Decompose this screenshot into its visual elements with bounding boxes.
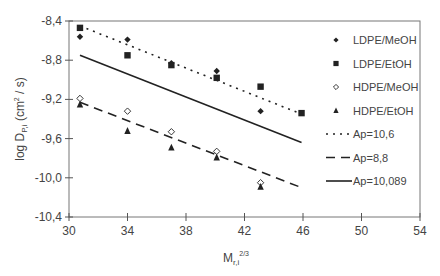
y-tick-label: -8,4	[41, 14, 62, 28]
open-diamond-marker	[168, 129, 174, 135]
legend-label: Ap=8,8	[353, 152, 388, 164]
triangle-marker	[333, 107, 338, 113]
fit-line	[80, 55, 302, 142]
square-marker	[124, 52, 130, 58]
x-tick-label: 50	[355, 224, 369, 238]
x-tick-label: 30	[62, 224, 76, 238]
square-marker	[214, 75, 220, 81]
y-tick-label: -9,6	[41, 132, 62, 146]
diamond-marker	[333, 37, 338, 42]
open-diamond-marker	[124, 108, 130, 114]
x-axis-label: Mr,i2/3	[223, 250, 249, 267]
triangle-marker	[214, 154, 220, 161]
square-marker	[333, 61, 338, 66]
chart: -8,4-8,8-9,2-9,6-10,0-10,4 3034384246505…	[0, 0, 440, 276]
x-tick-label: 38	[179, 224, 193, 238]
y-tick-label: -10,4	[35, 210, 63, 224]
data-points	[77, 25, 305, 190]
legend-label: LDPE/MeOH	[353, 34, 417, 46]
square-marker	[298, 110, 304, 116]
legend-label: HDPE/EtOH	[353, 105, 414, 117]
legend-label: Ap=10,6	[353, 128, 394, 140]
x-tick-label: 46	[296, 224, 310, 238]
diamond-marker	[77, 33, 83, 39]
triangle-marker	[168, 144, 174, 151]
fit-lines	[80, 26, 302, 188]
y-tick-label: -9,2	[41, 92, 62, 106]
square-marker	[257, 83, 263, 89]
x-tick-label: 42	[238, 224, 252, 238]
square-marker	[77, 25, 83, 31]
diamond-marker	[124, 36, 130, 42]
triangle-marker	[124, 127, 130, 134]
y-tick-label: -10,0	[35, 171, 63, 185]
legend: LDPE/MeOHLDPE/EtOHHDPE/MeOHHDPE/EtOHAp=1…	[326, 34, 418, 187]
legend-label: LDPE/EtOH	[353, 58, 412, 70]
y-axis-label: log DP,i (cm2 / s)	[13, 77, 29, 161]
legend-label: HDPE/MeOH	[353, 81, 418, 93]
x-tick-label: 54	[413, 224, 427, 238]
square-marker	[168, 62, 174, 68]
y-axis: -8,4-8,8-9,2-9,6-10,0-10,4	[35, 14, 73, 224]
diamond-marker	[214, 68, 220, 74]
plot-frame	[69, 21, 420, 217]
legend-label: Ap=10,089	[353, 175, 407, 187]
fit-line	[80, 26, 302, 114]
fit-line	[80, 102, 302, 187]
y-tick-label: -8,8	[41, 53, 62, 67]
diamond-marker	[257, 108, 263, 114]
x-tick-label: 34	[121, 224, 135, 238]
open-diamond-marker	[333, 84, 338, 89]
